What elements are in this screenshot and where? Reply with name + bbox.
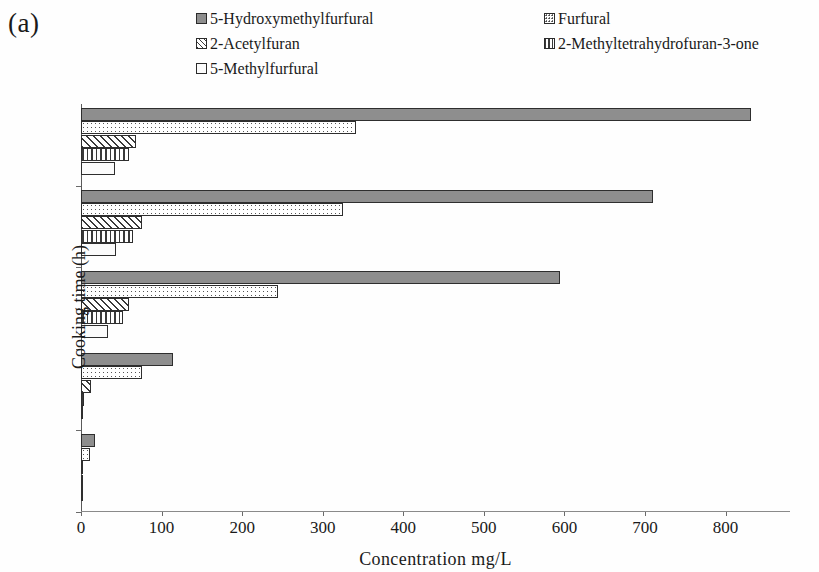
x-tick: [726, 512, 727, 516]
legend-label: Furfural: [558, 11, 610, 27]
bar-group-5-5h: [81, 271, 790, 353]
x-tick-label: 700: [632, 518, 658, 538]
legend-column-left: 5-Hydroxymethylfurfural 2-Acetylfuran 5-…: [196, 6, 374, 81]
x-tick-label: 600: [552, 518, 578, 538]
legend-label: 5-Hydroxymethylfurfural: [210, 11, 374, 27]
legend-column-right: Furfural 2-Methyltetrahydrofuran-3-one: [544, 6, 759, 56]
y-axis-title: Cooking time (h): [69, 245, 90, 369]
bar-7h-series-2: [81, 216, 142, 229]
x-tick: [323, 512, 324, 516]
bar-8-5h-series-1: [81, 121, 356, 134]
x-tick-label: 0: [77, 518, 86, 538]
bar-8-5h-series-2: [81, 135, 136, 148]
bar-4h-series-4: [81, 406, 83, 419]
x-tick-label: 800: [713, 518, 739, 538]
bar-2-5h-series-3: [81, 475, 83, 488]
x-tick-label: 300: [310, 518, 336, 538]
bar-7h-series-3: [81, 230, 133, 243]
bar-4h-series-2: [81, 380, 91, 393]
legend-swatch-icon-methylfurfural: [196, 63, 207, 74]
bar-8-5h-series-3: [81, 148, 129, 161]
y-tick: [76, 430, 81, 431]
legend-swatch-icon-acetylfuran: [196, 38, 207, 49]
bar-7h-series-0: [81, 190, 653, 203]
x-tick: [403, 512, 404, 516]
x-axis-title: Concentration mg/L: [81, 549, 790, 570]
bar-4h-series-3: [81, 393, 84, 406]
bar-5-5h-series-0: [81, 271, 560, 284]
bar-group-8-5h: [81, 108, 790, 190]
x-tick: [242, 512, 243, 516]
legend-swatch-icon-mthf3one: [544, 38, 555, 49]
x-tick: [81, 512, 82, 516]
x-tick: [484, 512, 485, 516]
chart-legend: 5-Hydroxymethylfurfural 2-Acetylfuran 5-…: [196, 6, 808, 84]
y-tick: [76, 186, 81, 187]
bar-7h-series-1: [81, 203, 343, 216]
x-tick-label: 500: [471, 518, 497, 538]
bar-5-5h-series-1: [81, 285, 278, 298]
x-tick-label: 100: [149, 518, 175, 538]
x-tick: [645, 512, 646, 516]
legend-item-acetylfuran: 2-Acetylfuran: [196, 31, 374, 56]
bar-8-5h-series-4: [81, 162, 115, 175]
legend-label: 2-Methyltetrahydrofuran-3-one: [558, 36, 759, 52]
legend-item-furfural: Furfural: [544, 6, 759, 31]
legend-label: 2-Acetylfuran: [210, 36, 300, 52]
x-tick: [564, 512, 565, 516]
x-tick-label: 200: [229, 518, 255, 538]
x-tick-label: 400: [391, 518, 417, 538]
x-tick: [162, 512, 163, 516]
bar-group-7h: [81, 190, 790, 272]
legend-swatch-icon-furfural: [544, 13, 555, 24]
bar-8-5h-series-0: [81, 108, 751, 121]
bar-group-4h: [81, 353, 790, 435]
legend-item-hydroxymethylfurfural: 5-Hydroxymethylfurfural: [196, 6, 374, 31]
bar-chart-plot-area: 8.575.542.5 0100200300400500600700800 Co…: [81, 104, 790, 512]
legend-label: 5-Methylfurfural: [210, 61, 318, 77]
bar-group-2-5h: [81, 434, 790, 516]
legend-item-methyltetrahydrofuranone: 2-Methyltetrahydrofuran-3-one: [544, 31, 759, 56]
bar-2-5h-series-1: [81, 448, 90, 461]
panel-label: (a): [8, 8, 39, 39]
bar-2-5h-series-0: [81, 434, 95, 447]
bar-2-5h-series-4: [81, 488, 83, 501]
legend-swatch-icon-hmf: [196, 13, 207, 24]
bar-4h-series-0: [81, 353, 173, 366]
bar-4h-series-1: [81, 366, 142, 379]
bar-2-5h-series-2: [81, 461, 83, 474]
legend-item-methylfurfural: 5-Methylfurfural: [196, 56, 374, 81]
